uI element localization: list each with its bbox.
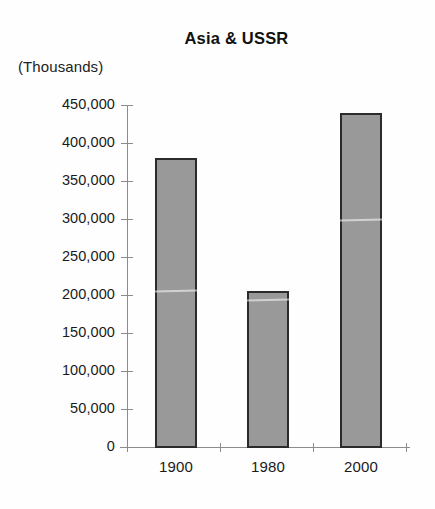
scan-streak xyxy=(155,289,197,292)
bar-2000[interactable] xyxy=(340,113,382,448)
bar-1980[interactable] xyxy=(247,291,289,448)
bar-1900[interactable] xyxy=(155,158,197,448)
y-tick-label: 400,000 xyxy=(23,134,115,150)
y-tick-mark xyxy=(121,105,133,106)
y-tick-mark xyxy=(121,333,133,334)
x-tick-mark xyxy=(313,443,314,452)
y-tick-label: 250,000 xyxy=(23,248,115,264)
y-tick-label: 200,000 xyxy=(23,286,115,302)
y-tick-label: 300,000 xyxy=(23,210,115,226)
y-tick-mark xyxy=(121,181,133,182)
y-tick-label: 150,000 xyxy=(23,324,115,340)
y-tick-label: 50,000 xyxy=(23,400,115,416)
scan-streak xyxy=(340,218,382,221)
x-tick-mark xyxy=(127,443,128,452)
y-tick-mark xyxy=(121,257,133,258)
y-tick-label: 450,000 xyxy=(23,96,115,112)
x-label-1980: 1980 xyxy=(238,458,298,475)
y-tick-label: 350,000 xyxy=(23,172,115,188)
scan-streak xyxy=(247,298,289,301)
plot-area: 450,000 400,000 350,000 300,000 250,000 … xyxy=(0,0,435,509)
bar-chart-figure: Asia & USSR (Thousands) 450,000 400,000 … xyxy=(0,0,435,509)
y-axis-line xyxy=(127,105,128,448)
y-tick-mark xyxy=(121,409,133,410)
x-label-2000: 2000 xyxy=(331,458,391,475)
y-tick-mark xyxy=(121,371,133,372)
x-label-1900: 1900 xyxy=(146,458,206,475)
x-tick-mark xyxy=(406,443,407,452)
y-tick-mark xyxy=(121,219,133,220)
x-tick-mark xyxy=(220,443,221,452)
y-tick-label: 100,000 xyxy=(23,362,115,378)
y-tick-label: 0 xyxy=(23,438,115,454)
y-tick-mark xyxy=(121,295,133,296)
y-tick-mark xyxy=(121,143,133,144)
